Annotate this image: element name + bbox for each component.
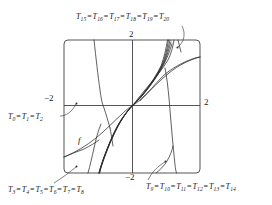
dot-bottomright	[165, 161, 167, 163]
term-sub: 6	[54, 189, 57, 195]
curve-f	[64, 57, 200, 157]
curve-T9-T14-c	[133, 40, 171, 106]
term-sub: 2	[40, 116, 43, 122]
term-sub: 11	[181, 186, 186, 192]
tick-label-left: −2	[44, 94, 54, 103]
term: T	[8, 112, 13, 121]
tick-label-bottom: −2	[125, 173, 135, 182]
term: T	[8, 185, 13, 194]
leader-lines	[54, 26, 184, 183]
term-sub: 4	[26, 189, 29, 195]
plot-canvas	[0, 0, 272, 205]
curve-lowerright-arc	[156, 146, 173, 173]
curve-descend-right	[165, 68, 177, 173]
curve-T0-T1-T2	[94, 40, 110, 128]
label-group-t0-t2: T0=T1=T2	[8, 113, 43, 121]
dot-left	[76, 103, 78, 105]
curve-T9-T14-d	[133, 40, 169, 106]
term: T	[209, 182, 214, 191]
term-sub: 12	[197, 186, 203, 192]
leader-bottomright	[148, 162, 165, 180]
leader-bottomleft	[54, 167, 76, 183]
curve-T3-T8-c	[99, 106, 133, 174]
term-sub: 18	[130, 16, 136, 22]
term: T	[76, 12, 81, 21]
curve-T3-T8-a	[99, 106, 133, 174]
dot-top	[177, 47, 179, 49]
tick-label-top: 2	[129, 30, 134, 39]
term-sub: 7	[67, 189, 70, 195]
term-sub: 13	[214, 186, 220, 192]
term-sub: 19	[147, 16, 153, 22]
term: T	[49, 185, 54, 194]
tick-label-right: 2	[204, 98, 209, 107]
term-sub: 5	[40, 189, 43, 195]
term-sub: 1	[26, 116, 29, 122]
curve-lowerleft-rise	[88, 124, 101, 173]
curve-T3-T8-e	[100, 106, 133, 174]
curves	[64, 40, 200, 173]
dot-bottomleft	[76, 166, 78, 168]
term: T	[146, 182, 151, 191]
term-sub: 16	[97, 16, 103, 22]
label-group-t9-t14: T9=T10=T11=T12=T13=T14	[146, 183, 236, 191]
term-sub: 15	[81, 16, 87, 22]
term-sub: 17	[114, 16, 120, 22]
label-group-t3-t8: T3=T4=T5=T6=T7=T8	[8, 186, 84, 194]
curve-T9-T14-e	[133, 40, 168, 106]
term-sub: 8	[81, 189, 84, 195]
curve-arc-right	[140, 57, 200, 101]
label-function-f: f	[78, 136, 81, 145]
label-group-t15-t20: T15=T16=T17=T18=T19=T20	[76, 13, 169, 21]
curve-T3-T8-d	[100, 106, 133, 174]
term-sub: 14	[230, 186, 236, 192]
term-sub: 10	[164, 186, 170, 192]
term-sub: 20	[163, 16, 169, 22]
curve-T3-T8-b	[99, 106, 133, 174]
taylor-polynomial-figure: T15=T16=T17=T18=T19=T20 T0=T1=T2 T3=T4=T…	[0, 0, 272, 205]
